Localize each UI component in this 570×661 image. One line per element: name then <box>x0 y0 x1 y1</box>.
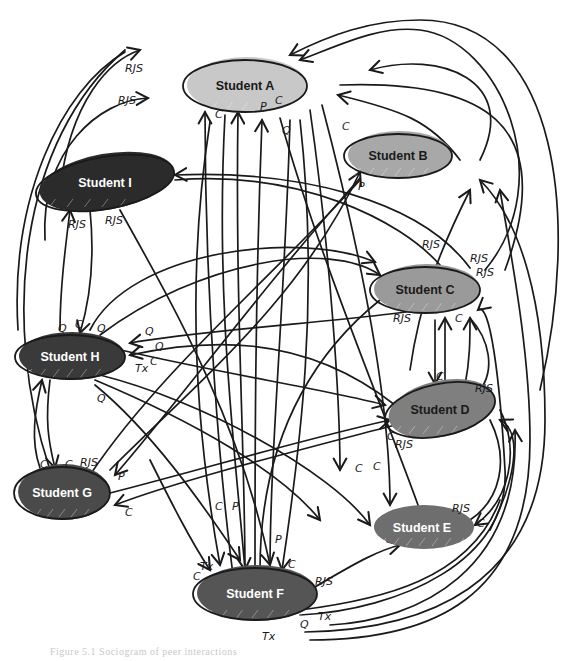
edge-label: RJS <box>475 382 493 395</box>
edge-arrow <box>130 310 420 343</box>
edge-label: C <box>477 517 485 530</box>
node-label: Student I <box>78 176 131 190</box>
edge-label: Tx <box>200 560 214 573</box>
edge-label: P <box>275 533 282 546</box>
node-student-c: Student C <box>370 264 480 314</box>
edge-arrow <box>465 318 470 385</box>
edge-label: Q <box>97 322 106 335</box>
edge-label: Q <box>300 618 309 631</box>
node-student-h: Student H <box>15 332 125 380</box>
edge-arrow <box>95 380 320 520</box>
edge-label: C <box>215 500 223 513</box>
edge-label: Q <box>145 325 154 338</box>
edge-label: C <box>355 462 363 475</box>
edge-arrow <box>255 120 262 570</box>
edge-label: Tx <box>318 610 332 623</box>
node-student-a: Student A <box>183 57 307 113</box>
edge-label: P <box>260 100 267 113</box>
edge-label: C <box>342 120 350 133</box>
edge-label: RJS <box>80 456 98 469</box>
node-student-i: Student I <box>32 142 179 221</box>
edge-label: RJS <box>476 266 494 279</box>
edge-label: RJS <box>125 62 143 75</box>
edge-arrow <box>34 380 42 468</box>
edge-label: C <box>288 558 296 571</box>
hatch-mark <box>479 426 485 434</box>
edge-label: RJS <box>395 438 413 451</box>
edge-arrow <box>470 420 500 520</box>
edge-label: RJS <box>68 218 86 231</box>
edge-arrow <box>310 110 340 470</box>
edge-label: P <box>118 470 125 483</box>
edge-label: Tx <box>135 362 149 375</box>
edge-label: P <box>358 180 365 193</box>
edge-label: P <box>232 500 239 513</box>
edge-label: Q <box>58 322 67 335</box>
edge-arrow <box>100 345 385 405</box>
node-label: Student A <box>216 79 275 93</box>
edge-label: RJS <box>452 502 470 515</box>
edge-arrow <box>48 380 55 468</box>
node-label: Student B <box>368 149 427 163</box>
edge-label: C <box>65 458 73 471</box>
edge-label: C <box>125 506 133 519</box>
edge-label: C <box>40 458 48 471</box>
node-label: Student C <box>395 283 454 297</box>
node-student-b: Student B <box>344 131 452 179</box>
edge-label: C <box>436 370 444 383</box>
edge-label: RJS <box>470 252 488 265</box>
node-label: Student E <box>393 521 451 535</box>
edge-label: Tx <box>262 630 276 643</box>
edge-label: RJS <box>393 312 411 325</box>
hatch-mark <box>155 199 161 207</box>
edge-label: RJS <box>315 575 333 588</box>
edge-arrow <box>260 300 380 570</box>
nodes-layer: Student AStudent BStudent IStudent CStud… <box>14 57 500 621</box>
edge-label: RJS <box>118 94 136 107</box>
edge-label: Q <box>282 124 291 137</box>
edge-arrow <box>470 318 489 390</box>
figure-caption: Figure 5.1 Sociogram of peer interaction… <box>50 646 237 657</box>
node-label: Student F <box>226 587 284 601</box>
edge-label: C <box>215 108 223 121</box>
edge-label: C <box>455 312 463 325</box>
node-label: Student G <box>32 486 92 500</box>
edge-label: Q <box>155 340 164 353</box>
edge-label: C <box>275 94 283 107</box>
node-label: Student H <box>40 350 99 364</box>
edge-label: RJS <box>105 214 123 227</box>
node-student-g: Student G <box>14 464 110 520</box>
edge-label: C <box>75 318 83 331</box>
edge-label: Q <box>97 392 106 405</box>
edge-arrow <box>290 20 558 390</box>
node-student-f: Student F <box>193 565 317 621</box>
node-label: Student D <box>410 403 469 417</box>
edge-label: C <box>150 355 158 368</box>
sociogram-diagram: Student AStudent BStudent IStudent CStud… <box>0 0 570 661</box>
edge-arrow <box>24 50 125 470</box>
edge-label: RJS <box>422 238 440 251</box>
edge-label: C <box>387 430 395 443</box>
edge-label: C <box>373 460 381 473</box>
